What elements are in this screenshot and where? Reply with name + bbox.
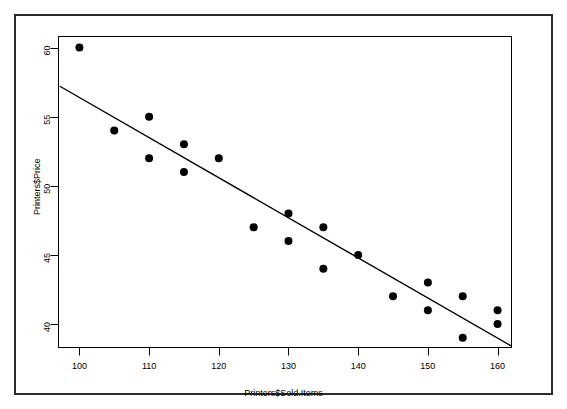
data-point xyxy=(145,154,153,162)
data-point xyxy=(319,265,327,273)
data-point xyxy=(424,306,432,314)
x-tick-label: 110 xyxy=(142,361,156,371)
data-point xyxy=(354,251,362,259)
y-tick-label: 40 xyxy=(42,322,52,332)
y-tick-label: 50 xyxy=(42,184,52,194)
y-tick-label: 60 xyxy=(42,46,52,56)
data-point xyxy=(494,320,502,328)
data-point xyxy=(110,126,118,134)
x-axis-title: Printers$Sold.Items xyxy=(0,388,567,398)
y-tick-label: 55 xyxy=(42,115,52,125)
screenshot-root: 100110120130140150160 4045505560 Printer… xyxy=(0,0,567,409)
x-tick-label: 120 xyxy=(211,361,226,371)
data-point xyxy=(145,113,153,121)
x-tick-label: 150 xyxy=(420,361,435,371)
data-point xyxy=(180,168,188,176)
plot-frame xyxy=(59,37,512,348)
data-point xyxy=(424,279,432,287)
data-point xyxy=(284,209,292,217)
y-axis-title: Printers$Price xyxy=(32,158,42,215)
data-point xyxy=(459,334,467,342)
data-point xyxy=(180,140,188,148)
scatter-plot: 100110120130140150160 4045505560 Printer… xyxy=(0,0,567,409)
data-points xyxy=(75,44,501,342)
data-point xyxy=(459,292,467,300)
data-point xyxy=(389,292,397,300)
x-tick-label: 140 xyxy=(351,361,366,371)
x-tick-label: 130 xyxy=(281,361,296,371)
data-point xyxy=(250,223,258,231)
plot-canvas xyxy=(0,0,567,409)
x-tick-label: 160 xyxy=(490,361,505,371)
data-point xyxy=(215,154,223,162)
data-point xyxy=(494,306,502,314)
data-point xyxy=(75,44,83,52)
x-tick-label: 100 xyxy=(72,361,87,371)
y-tick-label: 45 xyxy=(42,253,52,263)
data-point xyxy=(284,237,292,245)
x-axis-ticks xyxy=(80,348,499,356)
data-point xyxy=(319,223,327,231)
